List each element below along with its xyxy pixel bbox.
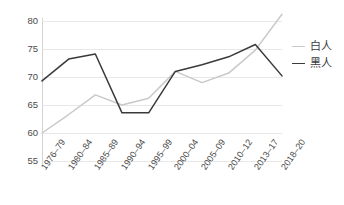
- legend-swatch-icon: [292, 63, 305, 65]
- x-tick-label: 1980–84: [66, 137, 94, 171]
- x-tick-label: 1990–94: [119, 137, 147, 171]
- x-axis: 1976–791980–841985–891990–941995–992000–…: [0, 0, 344, 205]
- line-chart: 556065707580 1976–791980–841985–891990–9…: [0, 0, 344, 205]
- x-tick-label: 1995–99: [146, 137, 174, 171]
- x-tick-label: 2005–09: [199, 137, 227, 171]
- x-tick-label: 1985–89: [92, 137, 120, 171]
- x-tick-label: 2018–20: [279, 137, 307, 171]
- legend-item[interactable]: 黑人: [292, 55, 344, 72]
- x-tick-label: 2013–17: [252, 137, 280, 171]
- legend-label: 黑人: [310, 57, 332, 70]
- legend-label: 白人: [310, 40, 332, 53]
- chart-legend: 白人黑人: [292, 38, 344, 72]
- legend-item[interactable]: 白人: [292, 38, 344, 55]
- legend-swatch-icon: [292, 46, 305, 48]
- x-tick-label: 2000–04: [172, 137, 200, 171]
- x-tick-label: 1976–79: [39, 137, 67, 171]
- x-tick-label: 2010–12: [226, 137, 254, 171]
